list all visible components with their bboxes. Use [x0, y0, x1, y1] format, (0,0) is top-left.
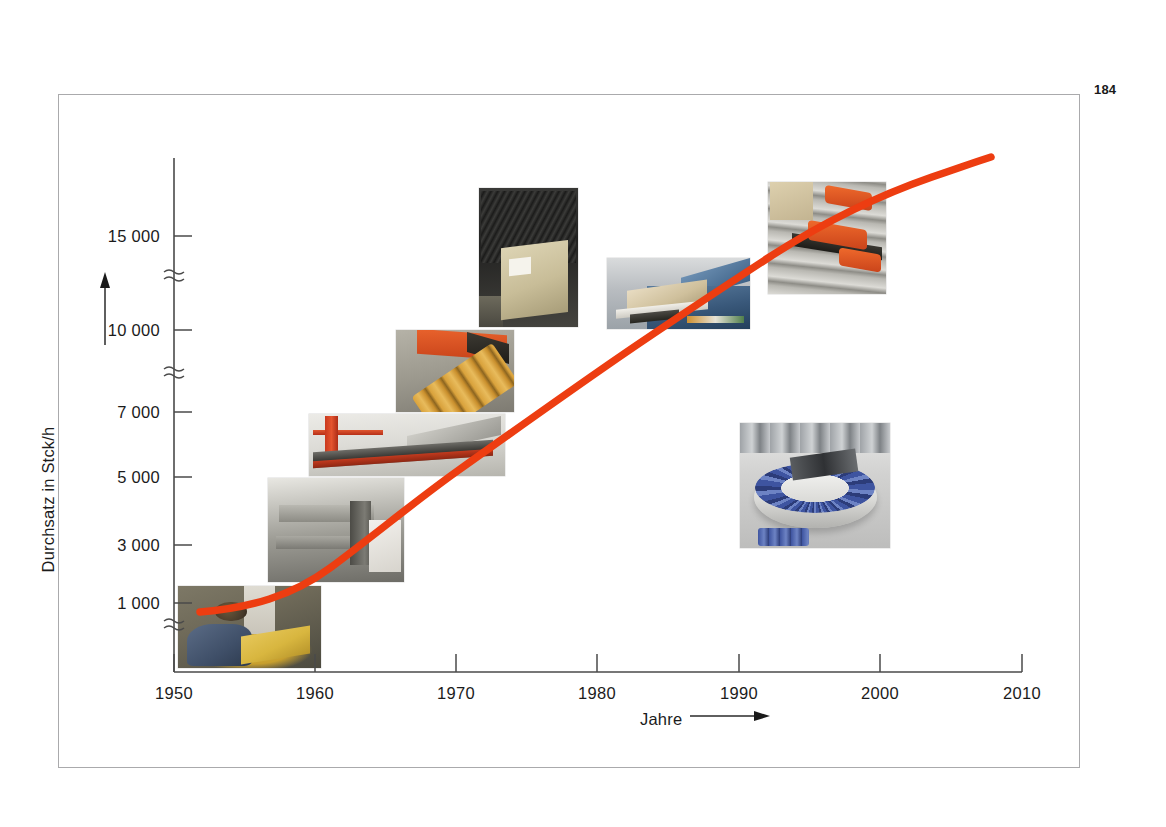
x-axis-title: Jahre	[640, 710, 682, 729]
x-tick-label-1980: 1980	[578, 684, 616, 703]
page-canvas: 184	[0, 0, 1166, 827]
annotation-photo-rundsorter	[740, 423, 890, 548]
annotation-photo-paket-sortiereinheit	[607, 258, 750, 329]
annotation-photo-schiebeschuh-sorter	[768, 182, 886, 294]
y-tick-label-15000: 15 000	[20, 227, 160, 246]
x-tick-label-2010: 2010	[1003, 684, 1041, 703]
annotation-photo-rollenbahn	[309, 414, 505, 476]
annotation-photo-karton-gurtfoerderer	[479, 188, 578, 327]
page-number: 184	[1094, 82, 1116, 97]
annotation-photo-antriebsrollen	[396, 330, 514, 412]
x-tick-label-1950: 1950	[155, 684, 193, 703]
y-axis-title: Durchsatz in Stck/h	[39, 390, 58, 610]
annotation-photo-handbeladung	[178, 586, 321, 668]
x-tick-label-2000: 2000	[861, 684, 899, 703]
x-tick-label-1990: 1990	[720, 684, 758, 703]
y-tick-label-10000: 10 000	[20, 321, 160, 340]
x-tick-label-1960: 1960	[296, 684, 334, 703]
x-tick-label-1970: 1970	[437, 684, 475, 703]
annotation-photo-bandfoerderer	[268, 478, 404, 582]
